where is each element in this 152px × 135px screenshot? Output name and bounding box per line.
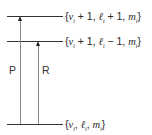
m-symbol: m bbox=[128, 36, 136, 47]
brace: } bbox=[137, 35, 141, 47]
level-ground-line bbox=[7, 124, 63, 125]
text: + 1, bbox=[75, 35, 99, 47]
label-upper: {vi + 1, ℓi + 1, mi} bbox=[65, 10, 141, 27]
label-ground: {vi, ℓi, mi} bbox=[65, 118, 105, 135]
text: − 1, bbox=[105, 35, 129, 47]
r-branch-label: R bbox=[42, 64, 50, 76]
p-transition-arrow bbox=[20, 20, 21, 124]
r-transition-arrow bbox=[38, 45, 39, 124]
p-arrowhead-icon bbox=[18, 16, 22, 21]
text: + 1, bbox=[75, 10, 99, 22]
brace: } bbox=[137, 10, 141, 22]
text: + 1, bbox=[105, 10, 129, 22]
brace: } bbox=[102, 118, 106, 130]
r-arrowhead-icon bbox=[36, 41, 40, 46]
p-branch-label: P bbox=[9, 64, 16, 76]
label-middle: {vi + 1, ℓi − 1, mi} bbox=[65, 35, 141, 52]
m-symbol: m bbox=[128, 11, 136, 22]
level-upper-line bbox=[7, 16, 63, 17]
